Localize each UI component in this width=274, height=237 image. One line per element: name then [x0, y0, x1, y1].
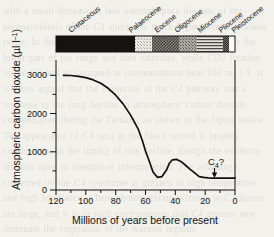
epoch-segment-pliocene [223, 36, 229, 52]
y-tick-label-1000: 1000 [27, 147, 47, 157]
y-tick-label-0: 0 [42, 185, 47, 195]
epoch-segment-cretaceous [56, 36, 135, 52]
epoch-segment-palaeocene [135, 36, 152, 52]
down-arrow-icon [212, 173, 217, 179]
x-tick-label-120: 120 [48, 196, 63, 206]
epoch-segment-miocene [197, 36, 223, 52]
annotation-c4-label: C4? [208, 156, 224, 169]
y-axis-title-main: Atmospheric carbon dioxide ( [10, 54, 22, 190]
x-axis-title: Millions of years before present [72, 214, 218, 226]
epoch-labels: Cretaceous Palaeocene Eocene Oligocene M… [67, 3, 266, 34]
co2-chart-svg: Cretaceous Palaeocene Eocene Oligocene M… [0, 0, 274, 237]
x-tick-label-40: 40 [170, 196, 180, 206]
x-tick-label-80: 80 [111, 196, 121, 206]
y-axis-title-close: ) [10, 29, 22, 33]
epoch-label-cretaceous: Cretaceous [67, 4, 103, 35]
y-axis-ticks [50, 75, 56, 190]
x-axis-ticks [56, 190, 235, 195]
y-axis-tick-labels: 0 1000 2000 3000 [27, 70, 47, 195]
epoch-segment-oligocene [179, 36, 197, 52]
y-axis-title-unit-exponent: –1 [11, 32, 18, 40]
plot-frame [56, 60, 235, 190]
x-axis-tick-labels: 120 100 80 60 40 20 0 [48, 196, 237, 206]
annotation-c4: C4? [208, 156, 224, 178]
x-tick-label-60: 60 [140, 196, 150, 206]
epoch-segment-eocene [152, 36, 179, 52]
figure-co2-vs-time: Cretaceous Palaeocene Eocene Oligocene M… [0, 0, 274, 237]
x-tick-label-0: 0 [232, 196, 237, 206]
x-tick-label-100: 100 [78, 196, 93, 206]
y-axis-title: Atmospheric carbon dioxide (µl l–1) [10, 29, 22, 190]
x-tick-label-20: 20 [200, 196, 210, 206]
epoch-segment-pleistocene [229, 36, 235, 52]
annotation-c4-question: ? [219, 156, 224, 167]
y-tick-label-2000: 2000 [27, 109, 47, 119]
y-axis-title-unit: µl l [10, 40, 22, 54]
y-tick-label-3000: 3000 [27, 70, 47, 80]
geologic-epoch-bar [56, 36, 235, 52]
